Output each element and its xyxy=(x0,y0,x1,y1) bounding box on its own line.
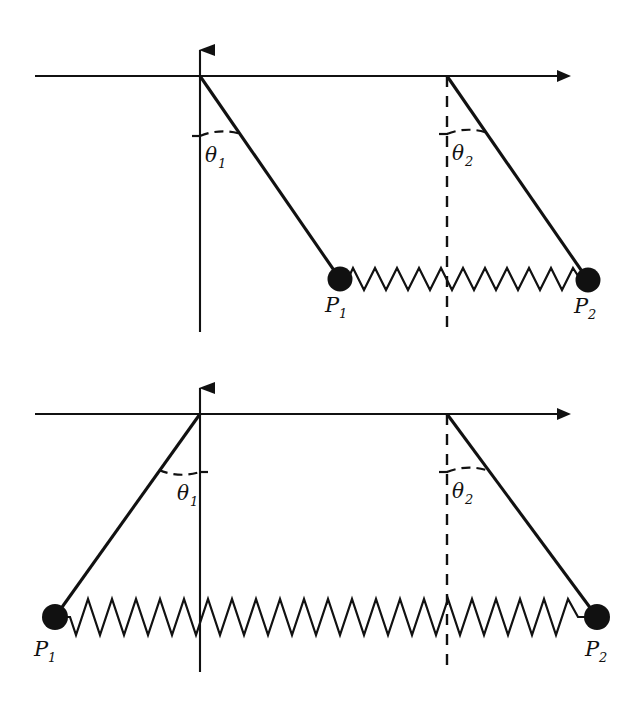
pendulum-figure-svg: θ 1 θ 2 P 1 P 2 xyxy=(0,0,642,702)
coupling-spring xyxy=(340,268,588,290)
bottom-panel: θ 1 θ 2 P 1 P 2 xyxy=(33,388,610,672)
label-theta1: θ xyxy=(177,481,189,505)
label-p1-subscript: 1 xyxy=(339,306,347,321)
label-theta2: θ xyxy=(452,141,464,165)
pendulum-rod-1 xyxy=(200,76,340,279)
angle-arc-theta2 xyxy=(447,468,489,472)
label-p2: P xyxy=(584,637,600,661)
angle-arc-theta2 xyxy=(447,130,488,134)
label-p2-subscript: 2 xyxy=(598,650,607,665)
label-p1: P xyxy=(324,293,340,317)
mass-bob-2 xyxy=(576,268,601,293)
label-theta2-subscript: 2 xyxy=(464,154,473,169)
label-theta2: θ xyxy=(452,479,464,503)
top-panel: θ 1 θ 2 P 1 P 2 xyxy=(35,50,601,332)
label-theta2-subscript: 2 xyxy=(464,492,473,507)
label-theta1-subscript: 1 xyxy=(218,156,226,171)
coupling-spring xyxy=(55,599,597,635)
mass-bob-1 xyxy=(328,267,353,292)
pendulum-rod-2 xyxy=(447,76,588,280)
label-p2: P xyxy=(573,294,589,318)
label-p1: P xyxy=(33,637,49,661)
angle-arc-theta1 xyxy=(200,131,241,136)
mass-bob-1 xyxy=(42,604,68,630)
label-theta1-subscript: 1 xyxy=(190,494,198,509)
label-p2-subscript: 2 xyxy=(587,307,596,322)
angle-arc-theta1 xyxy=(159,470,200,475)
figure-container: θ 1 θ 2 P 1 P 2 xyxy=(0,0,642,702)
mass-bob-2 xyxy=(584,604,610,630)
label-p1-subscript: 1 xyxy=(48,650,56,665)
pendulum-rod-1 xyxy=(55,414,200,617)
label-theta1: θ xyxy=(205,143,217,167)
pendulum-rod-2 xyxy=(447,414,597,617)
